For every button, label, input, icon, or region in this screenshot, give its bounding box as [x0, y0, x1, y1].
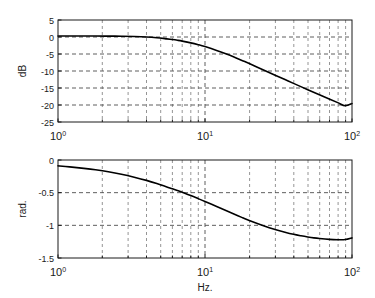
magnitude-ytick-5: -20 — [41, 101, 54, 111]
phase-ytick-2: -1 — [46, 221, 54, 231]
phase-yaxis-title: rad. — [17, 200, 28, 217]
magnitude-ytick-3: -10 — [41, 67, 54, 77]
phase-ytick-0: 0 — [49, 156, 54, 166]
magnitude-yaxis-title: dB — [17, 65, 28, 78]
magnitude-ytick-6: -25 — [41, 118, 54, 128]
magnitude-ytick-0: 5 — [49, 16, 54, 26]
magnitude-ytick-4: -15 — [41, 84, 54, 94]
bode-plot-figure: 5 0 -5 -10 -15 -20 -25 dB 100 101 102 — [0, 0, 375, 298]
figure-background — [0, 0, 375, 298]
magnitude-ytick-1: 0 — [49, 33, 54, 43]
bode-plot-canvas: 5 0 -5 -10 -15 -20 -25 dB 100 101 102 — [0, 0, 375, 298]
xaxis-title: Hz. — [198, 282, 213, 293]
phase-ytick-1: -0.5 — [38, 188, 54, 198]
phase-ytick-3: -1.5 — [38, 254, 54, 264]
magnitude-ytick-2: -5 — [46, 50, 54, 60]
